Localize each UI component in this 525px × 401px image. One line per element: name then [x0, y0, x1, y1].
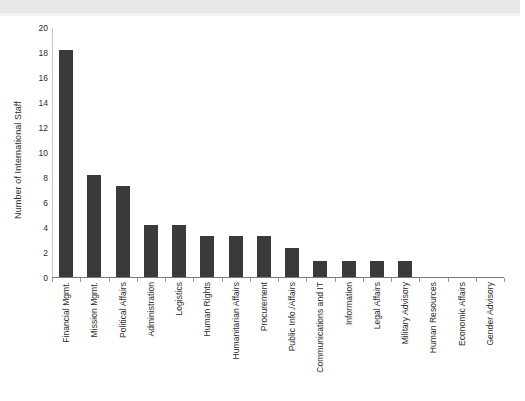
x-axis-category-label-text: Economic Affairs — [457, 282, 467, 346]
x-axis-category-label-text: Public Info./Affairs — [287, 282, 297, 351]
y-axis-title-label: Number of International Staff — [13, 101, 23, 219]
y-axis-tick-label: 18 — [28, 48, 48, 58]
y-axis-line — [52, 28, 53, 278]
bar — [87, 175, 101, 278]
x-axis-category-label-text: Humanitarian Affairs — [231, 282, 241, 359]
y-axis-tick-label: 0 — [28, 273, 48, 283]
bar — [116, 186, 130, 277]
y-axis-tick-label: 14 — [28, 98, 48, 108]
y-axis-tick-label: 10 — [28, 148, 48, 158]
bar — [200, 236, 214, 277]
bar — [172, 225, 186, 278]
x-axis-category-label: Political Affairs — [109, 282, 137, 394]
x-axis-category-label: Procurement — [250, 282, 278, 394]
x-axis-category-label-text: Financial Mgmt. — [61, 282, 71, 343]
bar — [257, 236, 271, 277]
x-axis-category-label: Administration — [137, 282, 165, 394]
x-axis-category-label: Logistics — [165, 282, 193, 394]
bar — [370, 261, 384, 277]
y-axis-tick-labels: 02468101214161820 — [28, 0, 48, 401]
plot-area — [52, 28, 504, 278]
x-axis-category-label-text: Logistics — [174, 282, 184, 316]
y-axis-title: Number of International Staff — [8, 60, 28, 260]
x-axis-category-label: Human Resources — [419, 282, 447, 394]
bar — [229, 236, 243, 277]
bar-chart-figure: Number of International Staff 0246810121… — [0, 0, 525, 401]
y-axis-tick-label: 12 — [28, 123, 48, 133]
x-axis-category-label: Economic Affairs — [448, 282, 476, 394]
y-axis-tick-label: 8 — [28, 173, 48, 183]
x-axis-category-label: Mission Mgmt. — [80, 282, 108, 394]
x-axis-category-label: Humanitarian Affairs — [222, 282, 250, 394]
x-axis-tick-mark — [504, 278, 505, 282]
x-axis-category-label: Gender Advisory — [476, 282, 504, 394]
x-axis-category-label: Communications and IT — [306, 282, 334, 394]
x-axis-category-label: Military Advisory — [391, 282, 419, 394]
y-axis-tick-label: 16 — [28, 73, 48, 83]
bar — [398, 261, 412, 277]
scan-artifact-right-edge — [520, 0, 525, 401]
x-axis-category-label-text: Procurement — [259, 282, 269, 331]
x-axis-category-label-text: Human Resources — [428, 282, 438, 353]
y-axis-tick-label: 6 — [28, 198, 48, 208]
x-axis-category-label-text: Gender Advisory — [485, 282, 495, 346]
x-axis-category-label-text: Administration — [146, 282, 156, 337]
x-axis-category-label-text: Mission Mgmt. — [89, 282, 99, 337]
y-axis-tick-label: 20 — [28, 23, 48, 33]
x-axis-category-labels: Financial Mgmt.Mission Mgmt.Political Af… — [52, 282, 504, 397]
x-axis-category-label: Financial Mgmt. — [52, 282, 80, 394]
x-axis-category-label-text: Communications and IT — [315, 282, 325, 373]
bar — [313, 261, 327, 277]
x-axis-category-label: Human Rights — [193, 282, 221, 394]
x-axis-category-label: Public Info./Affairs — [278, 282, 306, 394]
x-axis-category-label-text: Military Advisory — [400, 282, 410, 344]
x-axis-category-label-text: Information — [344, 282, 354, 325]
bar — [285, 248, 299, 277]
x-axis-category-label-text: Legal Affairs — [372, 282, 382, 329]
y-axis-tick-label: 4 — [28, 223, 48, 233]
bar — [342, 261, 356, 277]
x-axis-category-label-text: Human Rights — [202, 282, 212, 336]
x-axis-category-label-text: Political Affairs — [118, 282, 128, 338]
y-axis-tick-label: 2 — [28, 248, 48, 258]
x-axis-category-label: Information — [335, 282, 363, 394]
bar — [59, 50, 73, 278]
x-axis-category-label: Legal Affairs — [363, 282, 391, 394]
bar — [144, 225, 158, 278]
